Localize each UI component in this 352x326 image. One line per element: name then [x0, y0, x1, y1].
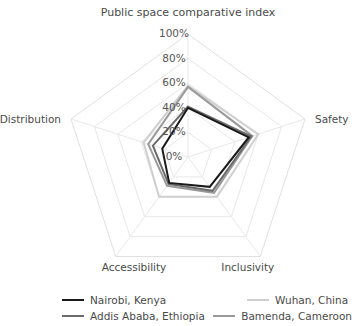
radar-chart-canvas: 0%20%40%60%80%100% SafetyInclusivityAcce… [0, 0, 352, 300]
legend-row-2: Addis Ababa, Ethiopia Bamenda, Cameroon [0, 310, 352, 322]
legend-swatch-addis-ababa [62, 315, 84, 317]
tick-label-60: 60% [162, 76, 185, 88]
tick-label-layer: 0%20%40%60%80%100% [159, 27, 189, 162]
axis-label-distribution: Distribution [0, 113, 61, 125]
axis-label-accessibility: Accessibility [102, 261, 167, 273]
axis-label-safety: Safety [315, 113, 349, 125]
tick-label-20: 20% [162, 125, 185, 137]
legend-item-addis-ababa[interactable]: Addis Ababa, Ethiopia [0, 310, 213, 322]
legend-swatch-nairobi [62, 299, 84, 301]
legend-swatch-wuhan [247, 299, 269, 301]
chart-title: Public space comparative index [101, 6, 276, 19]
axis-spoke-2 [188, 157, 260, 257]
tick-label-40: 40% [162, 101, 185, 113]
legend-item-bamenda[interactable]: Bamenda, Cameroon [213, 310, 352, 322]
radar-chart: 0%20%40%60%80%100% SafetyInclusivityAcce… [0, 0, 352, 326]
legend-label-wuhan: Wuhan, China [275, 294, 348, 306]
axis-label-inclusivity: Inclusivity [221, 261, 274, 273]
chart-legend: Nairobi, Kenya Wuhan, China Addis Ababa,… [0, 294, 352, 322]
legend-item-wuhan[interactable]: Wuhan, China [247, 294, 348, 306]
legend-label-addis-ababa: Addis Ababa, Ethiopia [90, 310, 205, 322]
grid-layer [71, 34, 305, 257]
tick-label-100: 100% [159, 27, 189, 39]
legend-item-nairobi[interactable]: Nairobi, Kenya [0, 294, 247, 306]
legend-label-bamenda: Bamenda, Cameroon [241, 310, 352, 322]
legend-row-1: Nairobi, Kenya Wuhan, China [0, 294, 352, 306]
legend-swatch-bamenda [213, 315, 235, 317]
legend-label-nairobi: Nairobi, Kenya [90, 294, 166, 306]
tick-label-80: 80% [162, 52, 185, 64]
tick-label-0: 0% [166, 150, 183, 162]
